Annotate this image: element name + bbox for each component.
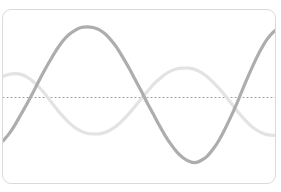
chart-card xyxy=(2,9,276,184)
wave-chart xyxy=(3,10,276,184)
wave-secondary-path xyxy=(3,68,276,135)
screenshot-root xyxy=(0,0,281,192)
series-group xyxy=(3,27,276,163)
